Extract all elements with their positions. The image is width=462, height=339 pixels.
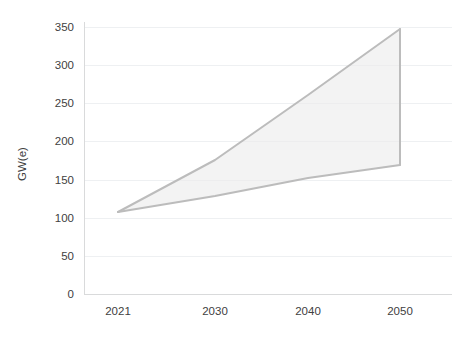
x-tick-label: 2030 xyxy=(202,305,228,317)
y-tick-label: 300 xyxy=(55,59,74,71)
y-tick-label: 100 xyxy=(55,212,74,224)
y-axis-title: GW(e) xyxy=(16,147,28,181)
y-tick-label: 150 xyxy=(55,174,74,186)
y-tick-label: 350 xyxy=(55,21,74,33)
y-tick-label: 0 xyxy=(68,288,74,300)
x-tick-label: 2021 xyxy=(105,305,131,317)
y-tick-label: 50 xyxy=(61,250,74,262)
y-tick-label: 200 xyxy=(55,135,74,147)
x-tick-label: 2040 xyxy=(295,305,321,317)
y-tick-label: 250 xyxy=(55,97,74,109)
x-tick-label: 2050 xyxy=(387,305,413,317)
chart-container: 350 300 250 200 150 100 50 0 2021 2030 2… xyxy=(0,0,462,339)
area-chart: 350 300 250 200 150 100 50 0 2021 2030 2… xyxy=(0,0,462,339)
